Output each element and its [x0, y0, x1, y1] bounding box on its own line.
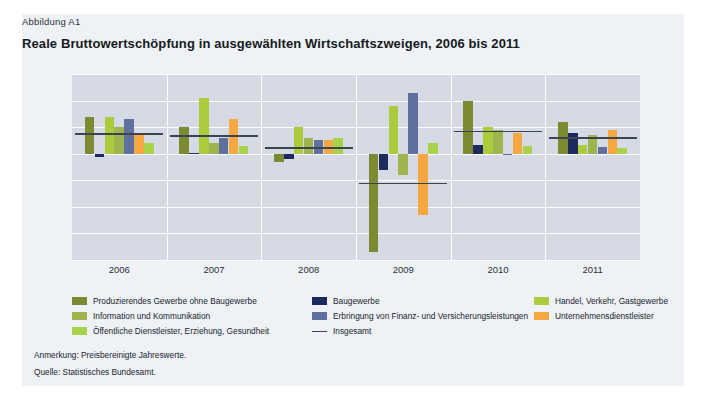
- legend-item-label: Unternehmensdienstleister: [555, 311, 654, 321]
- bar: [333, 138, 343, 154]
- bar: [199, 98, 209, 154]
- legend-item[interactable]: Unternehmensdienstleister: [534, 311, 654, 321]
- legend-item-label: Information und Kommunikation: [93, 311, 210, 321]
- legend-item-label: Erbringung von Finanz- und Versicherungs…: [333, 311, 528, 321]
- legend-item[interactable]: Produzierendes Gewerbe ohne Baugewerbe: [72, 296, 257, 306]
- bar: [114, 127, 124, 154]
- figure-note: Anmerkung: Preisbereinigte Jahreswerte.: [34, 350, 186, 360]
- legend-swatch-icon: [312, 312, 327, 320]
- bar: [304, 138, 314, 154]
- total-line-segment: [549, 137, 637, 139]
- bar: [134, 135, 144, 154]
- legend-swatch-icon: [72, 312, 87, 320]
- bar: [617, 148, 627, 153]
- bar: [189, 153, 199, 154]
- chart-plot-area: [72, 74, 640, 260]
- bar: [239, 146, 249, 154]
- total-line-segment: [75, 133, 163, 135]
- gridline-x-2: [261, 74, 262, 260]
- x-tick-label-2008: 2008: [298, 264, 319, 275]
- bar: [219, 138, 229, 154]
- bar: [144, 143, 154, 154]
- bar: [408, 93, 418, 154]
- bar: [568, 133, 578, 154]
- legend-item-label: Öffentliche Dienstleister, Erziehung, Ge…: [93, 326, 269, 336]
- legend-swatch-icon: [534, 312, 549, 320]
- bar: [85, 117, 95, 154]
- bar: [493, 130, 503, 154]
- figure-label: Abbildung A1: [22, 16, 80, 27]
- bar: [294, 127, 304, 154]
- bar: [428, 143, 438, 154]
- legend-swatch-icon: [72, 297, 87, 305]
- legend-item-label: Produzierendes Gewerbe ohne Baugewerbe: [93, 296, 257, 306]
- figure-title: Reale Bruttowertschöpfung in ausgewählte…: [22, 36, 520, 51]
- legend-swatch-icon: [312, 297, 327, 305]
- total-line-segment: [170, 135, 258, 137]
- bar: [513, 133, 523, 154]
- gridline-x-3: [356, 74, 357, 260]
- legend-item[interactable]: Information und Kommunikation: [72, 311, 210, 321]
- legend-line-icon: [312, 331, 327, 332]
- gridline-x-1: [167, 74, 168, 260]
- legend-item[interactable]: Handel, Verkehr, Gastgewerbe: [534, 296, 668, 306]
- x-tick-label-2010: 2010: [487, 264, 508, 275]
- legend-item[interactable]: Baugewerbe: [312, 296, 380, 306]
- bar: [124, 119, 134, 154]
- x-axis-ticks: 200620072008200920102011: [72, 264, 640, 278]
- bar: [369, 154, 379, 252]
- figure-source: Quelle: Statistisches Bundesamt.: [34, 367, 156, 377]
- legend-item[interactable]: Insgesamt: [312, 326, 371, 336]
- bar: [179, 127, 189, 154]
- chart-legend: Produzierendes Gewerbe ohne BaugewerbeBa…: [72, 296, 672, 338]
- bar: [398, 154, 408, 175]
- legend-swatch-icon: [534, 297, 549, 305]
- bar: [578, 145, 588, 154]
- total-line-segment: [359, 183, 447, 185]
- total-line-segment: [454, 131, 542, 133]
- x-tick-label-2007: 2007: [203, 264, 224, 275]
- bar: [463, 101, 473, 154]
- x-tick-label-2011: 2011: [582, 264, 602, 275]
- legend-item-label: Insgesamt: [333, 326, 371, 336]
- bar: [379, 154, 389, 170]
- x-tick-label-2009: 2009: [393, 264, 414, 275]
- bar: [95, 154, 105, 157]
- gridline-y--20: [72, 260, 640, 261]
- x-tick-label-2006: 2006: [109, 264, 130, 275]
- legend-item-label: Baugewerbe: [333, 296, 380, 306]
- bar: [473, 145, 483, 154]
- bar: [598, 147, 608, 153]
- total-line-segment: [265, 147, 353, 149]
- bar: [105, 117, 115, 154]
- legend-item[interactable]: Öffentliche Dienstleister, Erziehung, Ge…: [72, 326, 269, 336]
- bar: [389, 106, 399, 154]
- gridline-x-4: [451, 74, 452, 260]
- bar: [284, 154, 294, 159]
- legend-item[interactable]: Erbringung von Finanz- und Versicherungs…: [312, 311, 528, 321]
- legend-item-label: Handel, Verkehr, Gastgewerbe: [555, 296, 668, 306]
- bar: [503, 154, 513, 155]
- bar: [608, 130, 618, 154]
- gridline-x-5: [545, 74, 546, 260]
- bar: [274, 154, 284, 162]
- bar: [209, 143, 219, 154]
- legend-swatch-icon: [72, 327, 87, 335]
- bar: [523, 146, 533, 154]
